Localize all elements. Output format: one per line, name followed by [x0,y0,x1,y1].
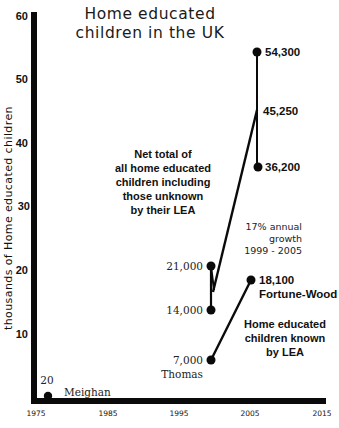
x-axis [31,398,326,404]
chart-canvas: Home educated children in the UK 60 50 4… [0,0,339,428]
annotation-net-total: Net total of all home educated children … [115,148,211,216]
y-tick-30: 30 [18,200,30,212]
svg-text:children known: children known [245,332,326,344]
series-net-total-points [207,48,263,315]
y-axis [31,12,37,404]
label-45250: 45,250 [263,105,298,117]
svg-text:by LEA: by LEA [266,346,304,358]
svg-text:children including: children including [116,176,211,188]
svg-text:those unknown: those unknown [123,190,204,202]
label-meighan: Meighan [64,386,111,398]
x-tick-1975: 1975 [26,409,45,418]
label-36200: 36,200 [265,161,300,173]
x-tick-1995: 1995 [169,409,188,418]
point-36200[interactable] [254,163,263,172]
point-meighan[interactable] [44,392,52,400]
svg-text:growth: growth [269,233,302,244]
x-tick-2005: 2005 [240,409,259,418]
label-21000: 21,000 [166,260,203,272]
svg-text:1999 - 2005: 1999 - 2005 [244,245,302,256]
chart-title-line-2: children in the UK [76,24,225,42]
annotation-known-by-lea: Home educated children known by LEA [244,318,326,358]
y-axis-label: thousands of Home educated children [2,106,15,330]
y-tick-40: 40 [16,137,28,149]
label-14000: 14,000 [166,304,203,316]
svg-text:all home educated: all home educated [115,162,211,174]
chart-title-line-1: Home educated [84,5,215,23]
series-net-total [211,52,257,310]
x-tick-2015: 2015 [312,409,331,418]
y-tick-20: 20 [16,264,28,276]
label-54300: 54,300 [265,46,300,58]
label-7000: 7,000 [173,354,203,366]
point-14000[interactable] [207,306,216,315]
y-tick-50: 50 [16,73,28,85]
label-fortune-wood: Fortune-Wood [259,288,337,300]
point-7000[interactable] [207,356,216,365]
svg-text:17% annual: 17% annual [246,221,302,232]
label-thomas: Thomas [161,368,203,380]
annotation-growth: 17% annual growth 1999 - 2005 [244,221,302,256]
y-tick-60: 60 [16,10,28,22]
x-tick-1985: 1985 [98,409,117,418]
label-20: 20 [40,374,53,386]
svg-text:Net total of: Net total of [134,148,192,160]
point-54300[interactable] [253,48,262,57]
point-21000[interactable] [207,262,216,271]
point-18100[interactable] [247,276,256,285]
y-tick-10: 10 [16,328,28,340]
label-18100: 18,100 [259,274,294,286]
svg-text:by their LEA: by their LEA [131,204,196,216]
svg-text:Home educated: Home educated [244,318,326,330]
